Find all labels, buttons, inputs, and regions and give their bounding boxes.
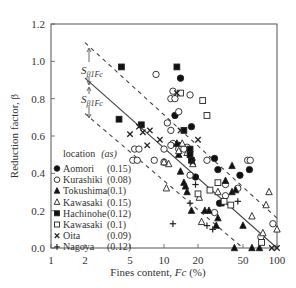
cross-x-marker	[147, 128, 152, 133]
legend-value: (0.08)	[107, 174, 131, 186]
x-tick-label: 100	[269, 254, 286, 266]
open-square-marker	[200, 98, 206, 104]
open-triangle-marker	[54, 199, 60, 205]
open-circle-marker	[54, 177, 60, 183]
open-triangle-marker	[263, 201, 269, 207]
open-circle-marker	[176, 109, 182, 115]
y-tick-label: 1.2	[31, 18, 45, 30]
open-triangle-marker	[215, 188, 221, 194]
x-tick-label: 50	[237, 254, 249, 266]
open-circle-marker	[164, 120, 170, 126]
legend-item: Kawasaki(0.15)	[54, 197, 131, 209]
y-tick-label: 0.4	[31, 167, 45, 179]
open-triangle-marker	[260, 229, 266, 235]
filled-triangle-marker	[177, 168, 183, 174]
filled-square-marker	[116, 116, 122, 122]
filled-square-marker	[55, 211, 60, 216]
open-square-marker	[204, 113, 210, 119]
legend-item: Kurashiki(0.08)	[54, 174, 131, 186]
upper-band-label: Sβ1Fc	[81, 64, 103, 79]
plus-marker	[204, 222, 210, 228]
cross-x-marker	[195, 137, 200, 142]
open-circle-marker	[187, 172, 193, 178]
filled-circle-marker	[177, 75, 183, 81]
legend: location(as) Aomori(0.15)Kurashiki(0.08)…	[54, 148, 131, 253]
filled-triangle-marker	[229, 162, 235, 168]
legend-item: Kawasaki(0.1)	[55, 219, 127, 231]
open-triangle-marker	[249, 213, 255, 219]
open-circle-marker	[211, 209, 217, 215]
y-tick-label: 0.6	[31, 130, 45, 142]
filled-triangle-marker	[54, 188, 60, 194]
legend-label: Hachinohe	[63, 208, 107, 219]
filled-square-marker	[174, 64, 180, 70]
filled-circle-marker	[215, 166, 221, 172]
open-circle-marker	[168, 142, 174, 148]
filled-square-marker	[119, 64, 125, 70]
y-tick-label: 0.2	[31, 205, 45, 217]
filled-circle-marker	[211, 155, 217, 161]
legend-item: Hachinohe(0.12)	[55, 208, 132, 220]
filled-circle-marker	[237, 172, 243, 178]
open-triangle-marker	[163, 185, 169, 191]
filled-circle-marker	[246, 166, 252, 172]
y-tick-label: 1.0	[31, 55, 45, 67]
open-circle-marker	[153, 71, 159, 77]
filled-triangle-marker	[188, 207, 194, 213]
open-circle-marker	[168, 127, 174, 133]
lower-band-label: Sβ1Fc	[81, 93, 103, 108]
legend-item: Tokushima(0.1)	[54, 185, 126, 197]
plus-marker	[170, 221, 176, 227]
y-axis-label: Reduction factor, β	[8, 93, 20, 178]
legend-title: location(as)	[63, 148, 117, 160]
open-square-marker	[207, 187, 213, 193]
x-tick-label: 1	[48, 254, 54, 266]
x-tick-label: 5	[127, 254, 133, 266]
y-tick-label: 0.0	[31, 242, 45, 254]
cross-x-marker	[140, 130, 145, 135]
legend-value: (0.1)	[107, 219, 126, 231]
x-axis-label: Fines content, Fc (%)	[110, 266, 206, 279]
legend-label: Oita	[63, 230, 81, 241]
band-annotations: Sβ1Fc Sβ1Fc	[81, 48, 103, 118]
open-circle-marker	[136, 146, 142, 152]
legend-value: (0.15)	[107, 197, 131, 209]
legend-value: (0.09)	[107, 230, 131, 242]
x-tick-label: 2	[82, 254, 88, 266]
open-square-marker	[228, 202, 234, 208]
open-circle-marker	[172, 95, 178, 101]
open-circle-marker	[247, 157, 253, 163]
legend-item: Aomori(0.15)	[54, 163, 131, 175]
open-square-marker	[55, 222, 60, 227]
cross-x-marker	[144, 143, 149, 148]
scatter-chart: 125102050100 0.00.20.40.60.81.01.2 Sβ1Fc…	[0, 0, 296, 288]
plus-marker	[192, 181, 198, 187]
open-square-marker	[215, 180, 221, 186]
legend-value: (0.12)	[107, 208, 131, 220]
plus-marker	[187, 200, 193, 206]
cross-x-marker	[55, 233, 60, 238]
legend-item: Oita(0.09)	[55, 230, 131, 242]
legend-value: (0.12)	[107, 241, 131, 253]
filled-circle-marker	[54, 166, 60, 172]
open-square-marker	[221, 198, 227, 204]
open-triangle-marker	[266, 188, 272, 194]
filled-square-marker	[187, 152, 193, 158]
plus-marker	[54, 244, 60, 250]
legend-label: Tokushima	[63, 185, 108, 196]
x-tick-label: 10	[159, 254, 171, 266]
legend-label: Kurashiki	[63, 174, 103, 185]
open-triangle-marker	[198, 218, 204, 224]
cross-x-marker	[157, 137, 162, 142]
open-circle-marker	[161, 146, 167, 152]
legend-value: (0.1)	[107, 185, 126, 197]
x-tick-label: 20	[193, 254, 205, 266]
legend-item: Nagoya(0.12)	[54, 241, 131, 253]
cross-x-marker	[127, 131, 132, 136]
legend-label: Kawasaki	[63, 197, 103, 208]
open-square-marker	[195, 191, 201, 197]
open-circle-marker	[222, 193, 228, 199]
data-points	[116, 64, 280, 251]
legend-label: Nagoya	[63, 241, 95, 252]
filled-square-marker	[187, 146, 193, 152]
